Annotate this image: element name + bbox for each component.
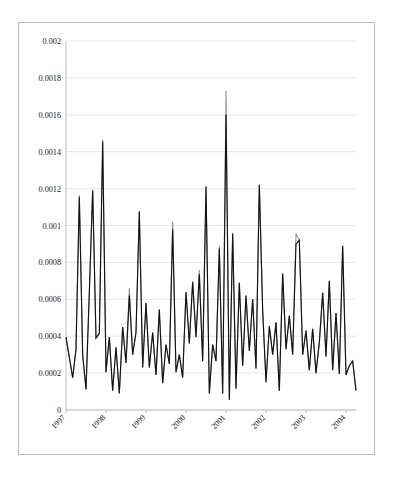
x-axis-tick-label: 2000 — [169, 413, 187, 431]
line-chart-svg: 00.00020.00040.00060.00080.0010.00120.00… — [19, 23, 374, 454]
y-tick-label-group: 00.00020.00040.00060.00080.0010.00120.00… — [38, 37, 61, 415]
x-axis-tick-label: 2004 — [329, 413, 347, 431]
y-axis-tick-label: 0.002 — [43, 37, 61, 46]
y-axis-tick-label: 0.0018 — [38, 74, 61, 83]
y-axis-tick-label: 0.0008 — [38, 258, 61, 267]
x-axis-tick-label: 2002 — [249, 413, 267, 431]
y-axis-tick-label: 0.0004 — [38, 332, 61, 341]
x-tick-label-group: 19971998199920002001200220032004 — [49, 413, 347, 431]
x-axis-tick-label: 2003 — [289, 413, 307, 431]
data-series-group — [66, 91, 356, 400]
gridline-group — [66, 41, 356, 410]
x-axis-tick-label: 1999 — [129, 413, 147, 431]
series-line-call — [66, 115, 356, 400]
y-axis-tick-label: 0.0016 — [38, 111, 61, 120]
y-axis-tick-label: 0.0002 — [38, 369, 61, 378]
x-axis-tick-label: 2001 — [209, 413, 227, 431]
x-axis-tick-label: 1997 — [49, 413, 67, 431]
x-axis-tick-label: 1998 — [89, 413, 107, 431]
chart-figure-container: 00.00020.00040.00060.00080.0010.00120.00… — [18, 22, 375, 455]
y-axis-tick-label: 0.0014 — [38, 148, 61, 157]
y-axis-tick-label: 0.0012 — [38, 185, 61, 194]
y-axis-tick-label: 0.0006 — [38, 295, 61, 304]
axis-group — [66, 41, 356, 413]
series-line-put — [66, 91, 356, 400]
y-axis-tick-label: 0.001 — [43, 222, 61, 231]
